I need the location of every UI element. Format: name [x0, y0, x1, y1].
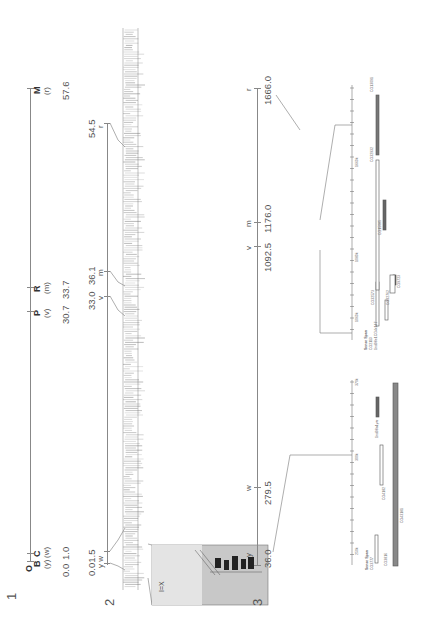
- contig-CG15085: CG15085: [378, 220, 382, 235]
- contig-CG32932: CG32932: [370, 147, 374, 162]
- contig-CG32762: CG32762: [386, 290, 390, 305]
- ruler-1080k: 1080k: [355, 252, 359, 262]
- contig-header-1: Sense Span: [365, 550, 369, 570]
- contig-CG4182: CG4182: [382, 487, 386, 500]
- panel-3-graphics: [0, 0, 425, 638]
- contig-1nd98e1CG4x147: 1nd98e1CG4x147: [374, 322, 378, 350]
- contig-1nd98a1yar: 1nd98a1yar: [375, 420, 379, 439]
- ruler-370k: 370k: [355, 378, 359, 386]
- contig-CG32573: CG32573: [371, 290, 375, 305]
- contig-CG3816: CG3816: [384, 553, 388, 566]
- contig-CG2113: CG2113: [369, 337, 373, 350]
- contig-CG43181: CG43181: [400, 508, 404, 523]
- contig-CG3777: CG3777: [370, 557, 374, 570]
- ruler-1660k: 1660k: [355, 157, 359, 167]
- contig-header-2: Sense Span: [364, 330, 368, 350]
- ruler-300k: 300k: [355, 453, 359, 461]
- ruler-250k: 250k: [355, 547, 359, 555]
- contig-CG9723: CG9723: [397, 275, 401, 288]
- ruler-1060k: 1060k: [355, 312, 359, 322]
- contig-CG13091: CG13091: [370, 77, 374, 92]
